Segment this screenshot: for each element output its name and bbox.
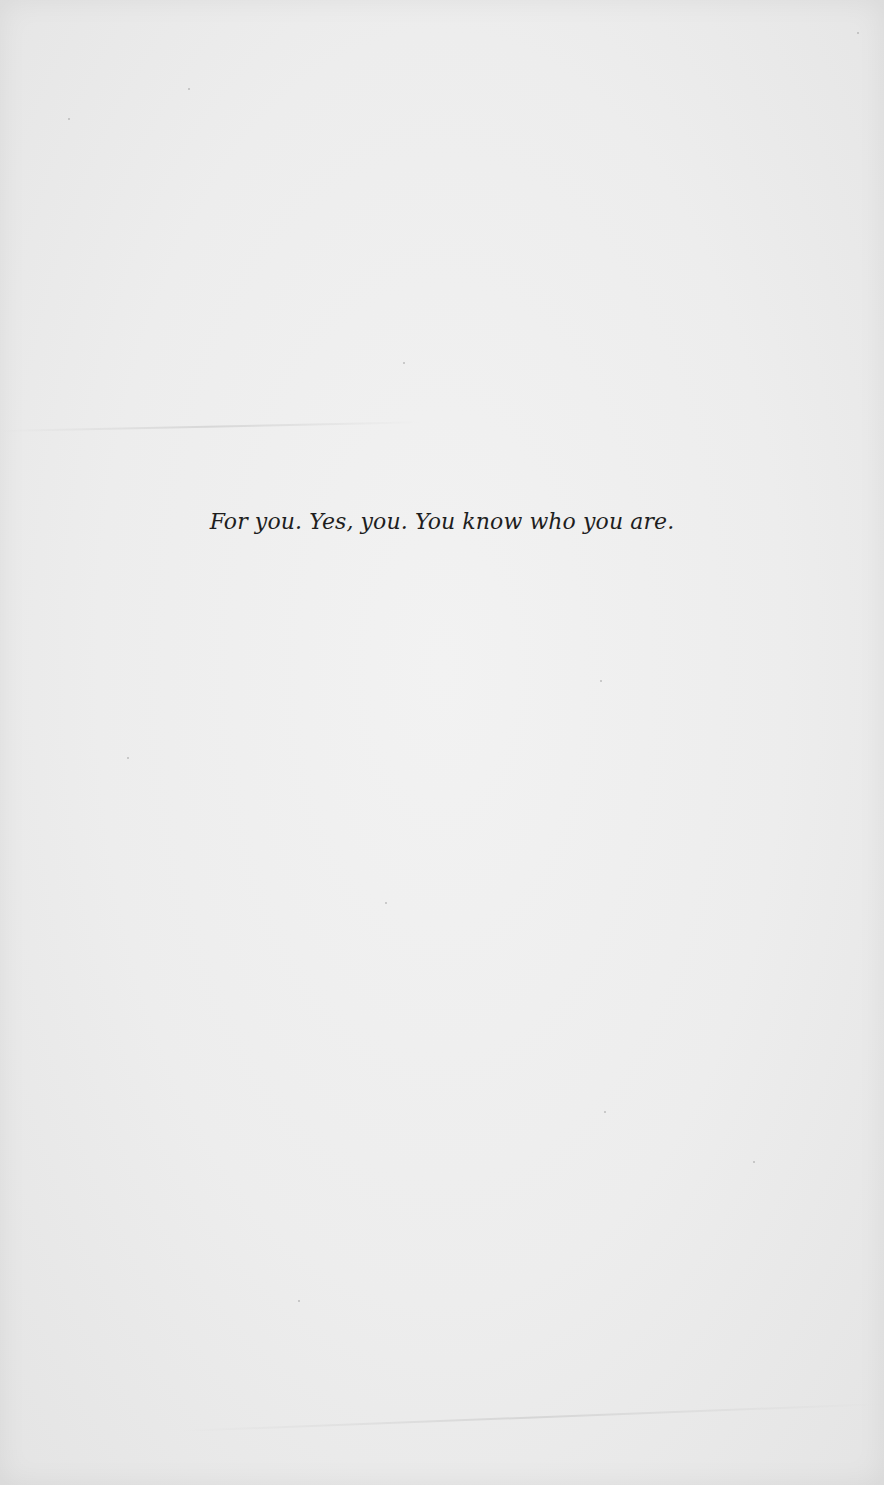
- paper-speck: [127, 757, 129, 759]
- paper-speck: [753, 1161, 755, 1163]
- paper-streak: [180, 1403, 884, 1432]
- paper-speck: [68, 118, 70, 120]
- paper-speck: [857, 32, 859, 34]
- paper-speck: [600, 680, 602, 682]
- paper-streak: [0, 421, 420, 432]
- paper-speck: [385, 902, 387, 904]
- paper-speck: [188, 88, 190, 90]
- book-page: For you. Yes, you. You know who you are.: [0, 0, 884, 1485]
- paper-speck: [298, 1300, 300, 1302]
- paper-speck: [403, 362, 405, 364]
- dedication-text: For you. Yes, you. You know who you are.: [0, 505, 884, 539]
- paper-speck: [604, 1111, 606, 1113]
